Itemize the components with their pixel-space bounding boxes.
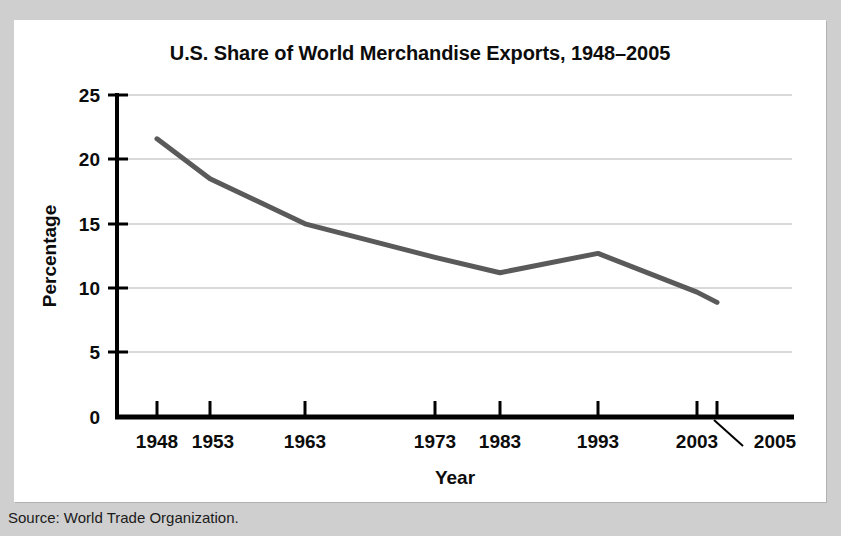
leader-line-2005 [714,420,743,446]
x-tick-label-1973: 1973 [414,431,456,452]
y-axis-title: Percentage [39,205,60,307]
x-axis-title: Year [435,467,476,488]
y-tick-label: 5 [89,342,100,363]
gridlines [116,95,792,352]
y-tick-label: 20 [79,149,100,170]
x-tick-label-1948: 1948 [136,431,178,452]
source-note: Source: World Trade Organization. [8,509,239,526]
x-axis-tick-labels: 1948 1953 1963 1973 1983 1993 2003 2005 [136,431,797,452]
x-tick-label-1993: 1993 [577,431,619,452]
x-tick-label-2003: 2003 [676,431,718,452]
line-chart-plot: 25 20 15 10 5 0 Percentage [14,20,826,502]
y-tick-label: 0 [89,407,100,428]
y-tick-label: 25 [79,85,101,106]
x-tick-label-1953: 1953 [192,431,234,452]
x-tick-label-1983: 1983 [479,431,521,452]
y-axis-tick-labels: 25 20 15 10 5 0 [79,85,101,428]
x-tick-label-1963: 1963 [284,431,326,452]
data-series-line [157,139,717,303]
chart-panel: U.S. Share of World Merchandise Exports,… [14,20,826,502]
y-tick-label: 15 [79,214,101,235]
x-tick-label-2005: 2005 [754,431,797,452]
y-tick-label: 10 [79,278,100,299]
figure-container: U.S. Share of World Merchandise Exports,… [0,0,841,536]
